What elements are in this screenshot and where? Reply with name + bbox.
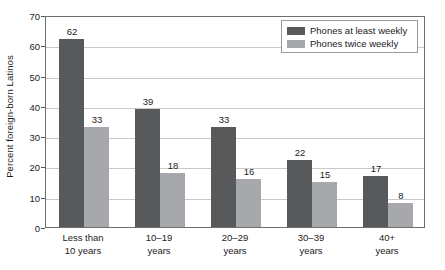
bar-value-label: 33 <box>77 114 117 125</box>
y-axis-tick-label: 60 <box>18 41 40 52</box>
bar-group: 3316 <box>211 17 261 227</box>
bar <box>84 127 109 227</box>
bar-chart: Percent foreign-born Latinos 01020304050… <box>0 0 445 270</box>
x-axis-category-label: 40+years <box>341 232 433 257</box>
bar-value-label: 16 <box>229 166 269 177</box>
legend-item: Phones at least weekly <box>287 24 413 37</box>
bar-value-label: 39 <box>128 96 168 107</box>
bar <box>59 39 84 227</box>
legend-item-label: Phones at least weekly <box>310 25 407 36</box>
y-axis-tick-mark <box>41 46 45 47</box>
bar-value-label: 15 <box>305 169 345 180</box>
bar-group: 3918 <box>135 17 185 227</box>
y-axis-title: Percent foreign-born Latinos <box>0 0 18 232</box>
bar <box>312 182 337 227</box>
chart-legend: Phones at least weekly Phones twice week… <box>281 20 418 53</box>
x-axis-label-line: 40+ <box>379 232 395 243</box>
y-axis-tick-mark <box>41 167 45 168</box>
bar <box>236 179 261 227</box>
bar-value-label: 22 <box>280 147 320 158</box>
legend-swatch-icon <box>287 27 305 35</box>
y-axis-tick-mark <box>41 107 45 108</box>
bar-value-label: 18 <box>153 160 193 171</box>
y-axis-tick-label: 10 <box>18 192 40 203</box>
y-axis-tick-mark <box>41 198 45 199</box>
bar <box>363 176 388 227</box>
legend-item: Phones twice weekly <box>287 37 413 50</box>
y-axis-tick-label: 40 <box>18 101 40 112</box>
bar-value-label: 33 <box>204 114 244 125</box>
bar-value-label: 62 <box>52 26 92 37</box>
bar-value-label: 8 <box>381 190 421 201</box>
legend-item-label: Phones twice weekly <box>310 38 398 49</box>
x-axis-label-line: 20–29 <box>222 232 248 243</box>
bar-group: 6233 <box>59 17 109 227</box>
bar <box>388 203 413 227</box>
y-axis-tick-label: 70 <box>18 11 40 22</box>
y-axis-tick-mark <box>41 228 45 229</box>
legend-swatch-icon <box>287 40 305 48</box>
x-axis-category-labels: Less than10 years10–19years20–29years30–… <box>45 232 425 270</box>
x-axis-label-line: Less than <box>62 232 103 243</box>
y-axis-tick-label: 50 <box>18 71 40 82</box>
y-axis-title-text: Percent foreign-born Latinos <box>4 55 15 178</box>
bar <box>211 127 236 227</box>
x-axis-label-line: 10–19 <box>146 232 172 243</box>
y-axis-tick-mark <box>41 16 45 17</box>
x-axis-label-line: years <box>341 245 433 258</box>
y-axis-tick-label: 20 <box>18 162 40 173</box>
bar <box>160 173 185 228</box>
y-axis-tick-labels: 010203040506070 <box>18 0 40 232</box>
x-axis-label-line: 30–39 <box>298 232 324 243</box>
y-axis-tick-mark <box>41 77 45 78</box>
y-axis-tick-mark <box>41 137 45 138</box>
y-axis-tick-label: 30 <box>18 132 40 143</box>
bar-value-label: 17 <box>356 163 396 174</box>
